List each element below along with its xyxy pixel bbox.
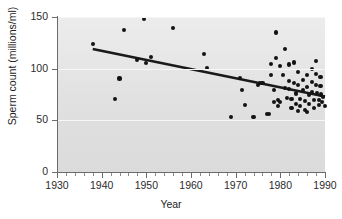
y-gridline bbox=[57, 69, 325, 70]
data-point bbox=[296, 70, 300, 74]
data-point bbox=[305, 85, 309, 89]
data-point bbox=[135, 58, 139, 62]
x-tick-minor bbox=[75, 173, 76, 176]
data-point bbox=[310, 80, 314, 84]
x-tick-label: 1970 bbox=[216, 180, 256, 191]
x-tick-minor bbox=[66, 173, 67, 176]
x-tick-minor bbox=[298, 173, 299, 176]
data-point bbox=[292, 81, 296, 85]
x-tick-minor bbox=[289, 173, 290, 176]
data-point bbox=[314, 59, 318, 63]
data-point bbox=[285, 96, 289, 100]
x-tick-label: 1930 bbox=[37, 180, 77, 191]
data-point bbox=[307, 102, 311, 106]
data-point bbox=[287, 62, 291, 66]
data-point bbox=[113, 97, 117, 101]
data-point bbox=[323, 104, 327, 108]
data-point bbox=[317, 103, 321, 107]
x-tick-minor bbox=[155, 173, 156, 176]
data-point bbox=[122, 28, 126, 32]
x-tick-minor bbox=[128, 173, 129, 176]
data-point bbox=[298, 104, 302, 108]
x-tick-label: 1950 bbox=[126, 180, 166, 191]
y-axis-line bbox=[57, 16, 58, 173]
data-point bbox=[287, 79, 291, 83]
x-tick-minor bbox=[245, 173, 246, 176]
x-tick-minor bbox=[93, 173, 94, 176]
data-point bbox=[274, 56, 278, 60]
data-point bbox=[320, 100, 324, 104]
data-point bbox=[229, 115, 233, 119]
data-point bbox=[283, 47, 287, 51]
data-point bbox=[276, 104, 280, 108]
data-point bbox=[272, 100, 276, 104]
data-point bbox=[272, 88, 276, 92]
x-axis-title: Year bbox=[0, 198, 342, 210]
x-tick-minor bbox=[262, 173, 263, 176]
x-tick-minor bbox=[209, 173, 210, 176]
data-point-layer bbox=[57, 17, 325, 172]
x-tick bbox=[102, 173, 103, 178]
data-point bbox=[149, 55, 153, 59]
data-point bbox=[144, 61, 148, 65]
data-point bbox=[314, 72, 318, 76]
data-point bbox=[287, 87, 291, 91]
x-tick-minor bbox=[111, 173, 112, 176]
x-tick-minor bbox=[84, 173, 85, 176]
plot-panel bbox=[57, 17, 325, 172]
data-point bbox=[312, 98, 316, 102]
x-tick bbox=[57, 173, 58, 178]
x-tick bbox=[325, 173, 326, 178]
data-point bbox=[91, 42, 95, 46]
data-point bbox=[292, 60, 296, 64]
data-point bbox=[171, 26, 175, 30]
data-point bbox=[298, 97, 302, 101]
x-tick-minor bbox=[271, 173, 272, 176]
data-point bbox=[312, 106, 316, 110]
data-point bbox=[318, 84, 322, 88]
data-point bbox=[240, 88, 244, 92]
x-tick-label: 1990 bbox=[305, 180, 342, 191]
data-point bbox=[296, 109, 300, 113]
data-point bbox=[243, 103, 247, 107]
x-tick-minor bbox=[120, 173, 121, 176]
y-tick bbox=[52, 17, 57, 18]
x-tick-label: 1940 bbox=[82, 180, 122, 191]
data-point bbox=[274, 30, 278, 34]
data-point bbox=[305, 110, 309, 114]
x-tick bbox=[280, 173, 281, 178]
y-tick bbox=[52, 69, 57, 70]
data-point bbox=[294, 91, 298, 95]
data-point bbox=[294, 102, 298, 106]
data-point bbox=[281, 73, 285, 77]
x-tick-label: 1980 bbox=[260, 180, 300, 191]
x-tick-minor bbox=[182, 173, 183, 176]
x-tick-minor bbox=[316, 173, 317, 176]
x-tick-minor bbox=[173, 173, 174, 176]
data-point bbox=[301, 78, 305, 82]
y-axis-title: Sperm count (millions/ml) bbox=[6, 0, 18, 141]
data-point bbox=[238, 76, 242, 80]
data-point bbox=[202, 52, 206, 56]
scatter-chart-figure: 050100150 1930194019501960197019801990 S… bbox=[0, 0, 342, 219]
x-tick-label: 1960 bbox=[171, 180, 211, 191]
data-point bbox=[283, 86, 287, 90]
y-tick-label: 0 bbox=[2, 166, 48, 176]
data-point bbox=[289, 106, 293, 110]
data-point bbox=[289, 97, 293, 101]
y-tick bbox=[52, 120, 57, 121]
data-point bbox=[267, 112, 271, 116]
data-point bbox=[269, 73, 273, 77]
x-tick-minor bbox=[307, 173, 308, 176]
data-point bbox=[117, 76, 121, 80]
x-tick-minor bbox=[200, 173, 201, 176]
x-tick-minor bbox=[254, 173, 255, 176]
data-point bbox=[296, 83, 300, 87]
data-point bbox=[314, 83, 318, 87]
data-point bbox=[251, 115, 255, 119]
x-tick bbox=[236, 173, 237, 178]
y-gridline bbox=[57, 17, 325, 18]
data-point bbox=[278, 64, 282, 68]
x-tick-minor bbox=[164, 173, 165, 176]
data-point bbox=[305, 73, 309, 77]
